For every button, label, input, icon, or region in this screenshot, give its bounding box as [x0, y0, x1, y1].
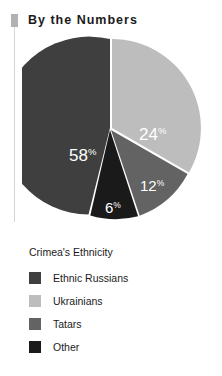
infographic-panel: By the Numbers 58% 24% 12% 6%	[0, 0, 222, 376]
legend-item-ukrainians[interactable]: Ukrainians	[29, 289, 209, 312]
left-vertical-rule	[14, 26, 15, 222]
legend-item-label: Ukrainians	[53, 295, 103, 307]
page-title: By the Numbers	[28, 13, 138, 27]
legend-item-ethnic-russians[interactable]: Ethnic Russians	[29, 266, 209, 289]
pie-chart-svg: 58% 24% 12% 6%	[22, 36, 202, 221]
legend-swatch-icon	[29, 272, 41, 284]
pie-chart: 58% 24% 12% 6%	[22, 36, 202, 221]
legend-item-label: Tatars	[53, 318, 82, 330]
legend-title: Crimea's Ethnicity	[29, 246, 209, 258]
legend-swatch-icon	[29, 295, 41, 307]
legend-item-label: Ethnic Russians	[53, 272, 128, 284]
legend-swatch-icon	[29, 341, 41, 353]
chart-legend: Crimea's Ethnicity Ethnic Russians Ukrai…	[29, 246, 209, 358]
section-marker-icon	[11, 14, 18, 27]
legend-item-tatars[interactable]: Tatars	[29, 312, 209, 335]
legend-swatch-icon	[29, 318, 41, 330]
legend-item-label: Other	[53, 341, 79, 353]
legend-item-other[interactable]: Other	[29, 335, 209, 358]
